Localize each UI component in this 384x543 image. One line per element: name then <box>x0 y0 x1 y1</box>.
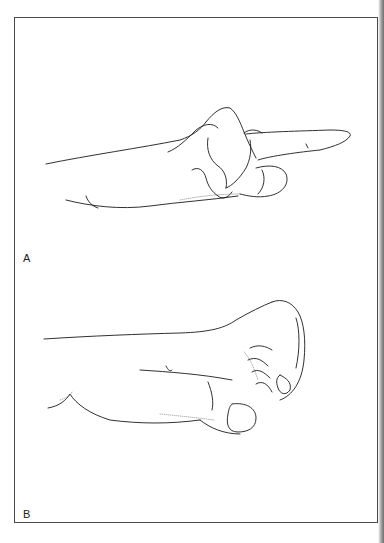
hand-illustration-b <box>0 0 384 543</box>
